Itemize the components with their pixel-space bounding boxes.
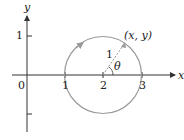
angle-label: θ	[114, 60, 121, 73]
circle-diagram: y x 0 1 1 2 3 (x, y) 1 θ	[0, 0, 184, 140]
y-axis-label: y	[23, 1, 31, 14]
angle-arc	[109, 67, 113, 75]
radius-label: 1	[106, 48, 113, 61]
point-label: (x, y)	[124, 29, 152, 42]
x-tick-label-3: 3	[139, 79, 146, 92]
x-axis-label: x	[178, 69, 184, 82]
origin-label: 0	[18, 79, 25, 92]
x-tick-label-2: 2	[100, 79, 107, 92]
y-tick-label-1: 1	[16, 29, 23, 42]
x-tick-label-1: 1	[62, 79, 69, 92]
direction-arrow-icon	[76, 43, 83, 49]
